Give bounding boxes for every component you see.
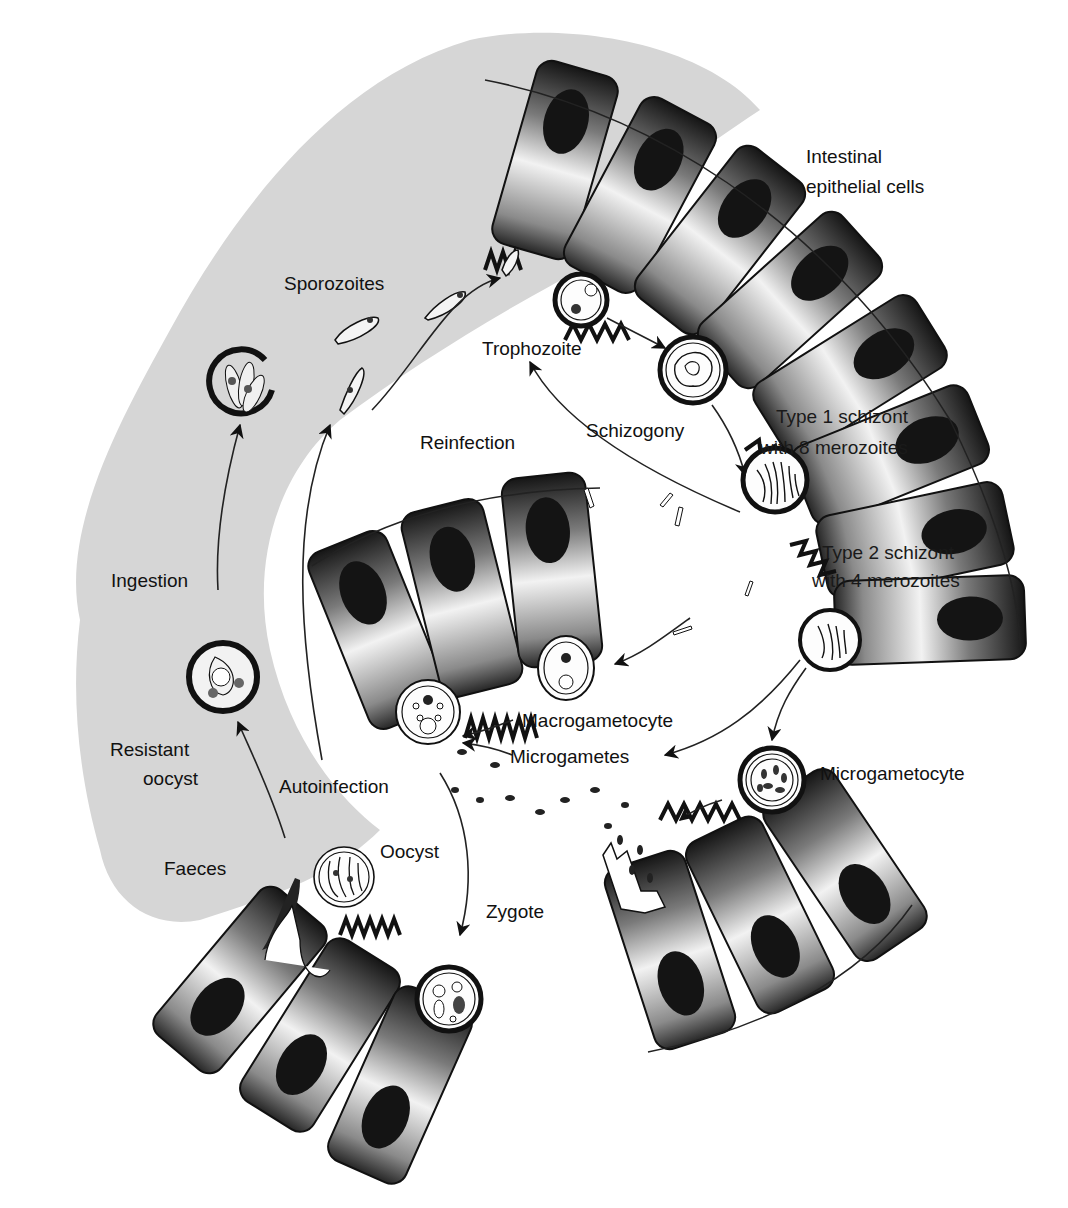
developing-schizont [660, 337, 726, 403]
label-type2-schizont-1: Type 2 schizont [822, 542, 955, 563]
oocyst [314, 847, 374, 907]
label-sporozoites: Sporozoites [284, 273, 384, 294]
arrow-to-microgametes [665, 660, 800, 755]
arrow-to-microgametocyte [772, 668, 806, 740]
label-zygote: Zygote [486, 901, 544, 922]
zygote [417, 967, 481, 1031]
label-schizogony: Schizogony [586, 420, 685, 441]
label-macrogametocyte: Macrogametocyte [522, 710, 673, 731]
label-reinfection: Reinfection [420, 432, 515, 453]
macrogamete [396, 680, 460, 744]
label-oocyst: Oocyst [380, 841, 440, 862]
type2-schizont [800, 610, 860, 670]
label-microgametocyte: Microgametocyte [820, 763, 965, 784]
epithelial-cell-band-bottom-left [147, 878, 477, 1189]
arrow-schizogony [712, 405, 745, 475]
label-intestinal-epithelial-cells-2: epithelial cells [806, 176, 924, 197]
trophozoite [555, 274, 607, 326]
resistant-oocyst [189, 643, 257, 711]
label-autoinfection: Autoinfection [279, 776, 389, 797]
arrow-to-macrogametocyte [615, 618, 690, 664]
label-type1-schizont-1: Type 1 schizont [776, 406, 909, 427]
arrow-microgametes-pointer [463, 743, 512, 755]
label-ingestion: Ingestion [111, 570, 188, 591]
label-microgametes: Microgametes [510, 746, 629, 767]
label-faeces: Faeces [164, 858, 226, 879]
macrogametocyte [538, 636, 594, 700]
arrow-to-zygote [440, 773, 468, 935]
label-type2-schizont-2: with 4 merozoites [811, 570, 960, 591]
microgametocyte [740, 748, 804, 812]
label-resistant-oocyst-1: Resistant [110, 739, 190, 760]
label-resistant-oocyst-2: oocyst [143, 768, 199, 789]
label-trophozoite: Trophozoite [482, 338, 582, 359]
life-cycle-diagram: Intestinal epithelial cells Sporozoites … [0, 0, 1068, 1208]
label-intestinal-epithelial-cells-1: Intestinal [806, 146, 882, 167]
label-type1-schizont-2: with 8 merozoites [759, 437, 908, 458]
